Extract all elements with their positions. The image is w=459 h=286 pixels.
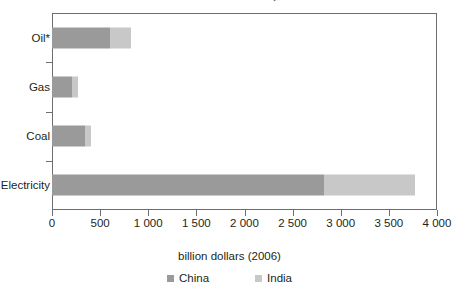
- x-axis-tick-label: 4 000: [423, 217, 452, 229]
- x-axis-title: billion dollars (2006): [0, 250, 459, 262]
- x-axis-tick-label: 2 500: [278, 217, 307, 229]
- stacked-bar[interactable]: [52, 126, 91, 147]
- x-axis-tick-label: 2 000: [230, 217, 259, 229]
- bar-row: [52, 112, 437, 161]
- chart-legend: ChinaIndia: [0, 272, 459, 284]
- stacked-bar[interactable]: [52, 175, 415, 196]
- x-axis-tick: [196, 210, 197, 216]
- legend-item-india[interactable]: India: [255, 272, 292, 284]
- x-axis-tick: [437, 210, 438, 216]
- x-axis-tick: [245, 210, 246, 216]
- x-axis-tick-label: 3 000: [326, 217, 355, 229]
- bar-segment-china[interactable]: [52, 76, 72, 97]
- x-axis-tick: [293, 210, 294, 216]
- bar-row: [52, 13, 437, 62]
- x-axis-tick-label: 0: [49, 217, 55, 229]
- x-axis-tick-label: 3 500: [374, 217, 403, 229]
- y-axis-label-coal: Coal: [0, 112, 50, 161]
- x-axis-tick: [148, 210, 149, 216]
- bar-segment-india[interactable]: [324, 175, 414, 196]
- x-axis-tick: [341, 210, 342, 216]
- legend-swatch-icon: [167, 275, 174, 282]
- legend-swatch-icon: [255, 275, 262, 282]
- legend-item-china[interactable]: China: [167, 272, 209, 284]
- stacked-bar[interactable]: [52, 27, 131, 48]
- x-axis-tick: [389, 210, 390, 216]
- legend-label: China: [179, 272, 209, 284]
- x-axis-ticks: [52, 210, 437, 216]
- legend-label: India: [267, 272, 292, 284]
- bar-row: [52, 62, 437, 111]
- x-axis-tick-label: 1 500: [182, 217, 211, 229]
- x-axis-tick: [100, 210, 101, 216]
- y-axis-label-electricity: Electricity: [0, 161, 50, 210]
- bar-segment-china[interactable]: [52, 27, 110, 48]
- bar-row: [52, 161, 437, 210]
- x-axis-tick-label: 500: [91, 217, 110, 229]
- bar-segment-china[interactable]: [52, 175, 324, 196]
- x-axis-tick-label: 1 000: [134, 217, 163, 229]
- x-axis-tick: [52, 210, 53, 216]
- bar-segment-india[interactable]: [85, 126, 92, 147]
- bars-container: [52, 13, 437, 210]
- y-axis-label-oil: Oil*: [0, 13, 50, 62]
- y-axis-label-gas: Gas: [0, 62, 50, 111]
- chart-figure: Table 1. Estimated subsidies, 2006-08 Oi…: [0, 0, 459, 286]
- bar-segment-china[interactable]: [52, 126, 85, 147]
- stacked-bar[interactable]: [52, 76, 78, 97]
- x-axis-tick-labels: 05001 0001 5002 0002 5003 0003 5004 000: [0, 217, 459, 233]
- bar-segment-india[interactable]: [72, 76, 78, 97]
- chart-title: Table 1. Estimated subsidies, 2006-08: [0, 0, 459, 2]
- bar-segment-india[interactable]: [110, 27, 131, 48]
